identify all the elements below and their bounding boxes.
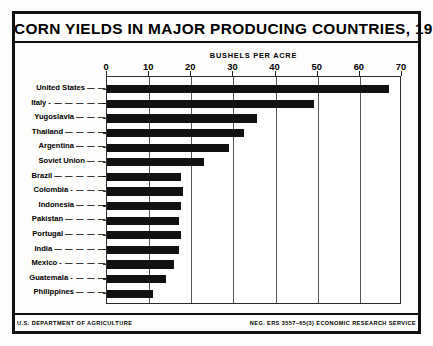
bar (107, 260, 174, 268)
bar (107, 85, 389, 93)
bar-row (107, 213, 400, 228)
bar-row (107, 257, 400, 272)
bar-row (107, 82, 400, 97)
bar (107, 202, 181, 210)
bar (107, 173, 181, 181)
bar-row (107, 228, 400, 243)
category-label: Philippines— — — (20, 285, 106, 300)
bar-row (107, 170, 400, 185)
plot-area (106, 76, 401, 304)
bar (107, 290, 153, 298)
bar-row (107, 155, 400, 170)
bar (107, 158, 204, 166)
bar (107, 144, 229, 152)
bar (107, 129, 244, 137)
category-label: United States— — (20, 81, 106, 96)
category-label: Yugoslavia— — — (20, 110, 106, 125)
title-divider (15, 41, 418, 43)
bar (107, 246, 179, 254)
bar-row (107, 199, 400, 214)
category-label: Portugal— — — — (20, 227, 106, 242)
bar-row (107, 243, 400, 258)
category-label: Thailand— — — — (20, 125, 106, 140)
footer-agency: U.S. DEPARTMENT OF AGRICULTURE (17, 320, 132, 326)
bar (107, 217, 179, 225)
category-label: Guatemala- — — — (20, 271, 106, 286)
category-label: Pakistan— — — — (20, 212, 106, 227)
bar-row (107, 272, 400, 287)
bar-row (107, 126, 400, 141)
category-label: Italy- — — — — — (20, 96, 106, 111)
bar-row (107, 111, 400, 126)
chart-poster: CORN YIELDS IN MAJOR PRODUCING COUNTRIES… (0, 0, 433, 346)
category-label: Brazil— — — — — (20, 169, 106, 184)
bar-row (107, 140, 400, 155)
bar (107, 100, 314, 108)
category-label: Indonesia— — — (20, 198, 106, 213)
category-label: Soviet Union— — (20, 154, 106, 169)
category-label: Argentina— — — (20, 139, 106, 154)
bar-row (107, 97, 400, 112)
footer-catalog: NEG. ERS 3557–65(3) ECONOMIC RESEARCH SE… (250, 320, 416, 326)
category-label: Mexico- — — — — (20, 256, 106, 271)
bar-row (107, 286, 400, 301)
x-axis-title: BUSHELS PER ACRE (106, 51, 401, 60)
footer-divider (15, 313, 418, 315)
category-label: India— — — — — (20, 242, 106, 257)
bar-row (107, 184, 400, 199)
page-title: CORN YIELDS IN MAJOR PRODUCING COUNTRIES… (14, 20, 419, 38)
bar (107, 187, 183, 195)
bar (107, 275, 166, 283)
bar (107, 231, 181, 239)
category-label: Colombia- — — — (20, 183, 106, 198)
x-tick-mark-70 (401, 71, 402, 76)
bar (107, 114, 257, 122)
